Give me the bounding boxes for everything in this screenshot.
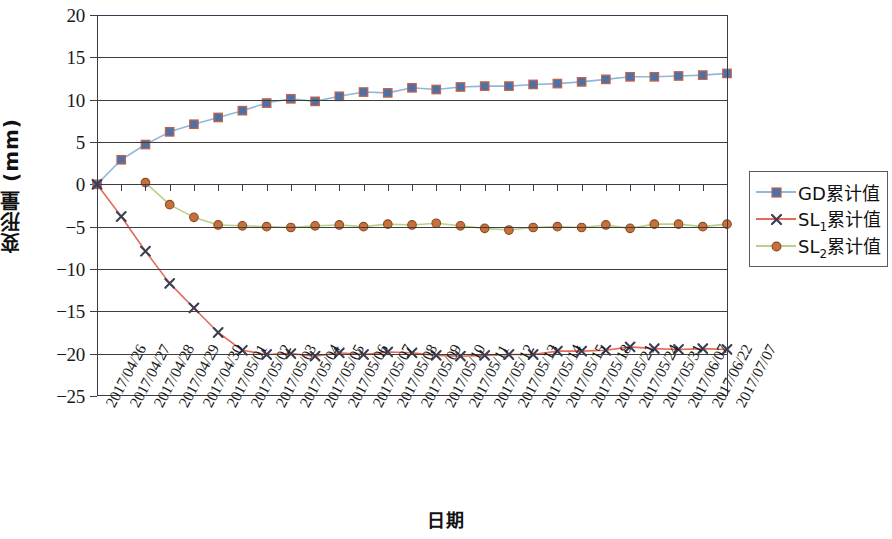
legend-item-2[interactable]: SL1累计值	[756, 206, 883, 232]
legend-label: GD累计值	[798, 179, 880, 205]
x-axis-tick-mark	[557, 184, 558, 191]
legend-item-3[interactable]: SL2累计值	[756, 233, 883, 259]
legend-swatch	[756, 212, 796, 226]
y-axis-tick-mark	[90, 269, 97, 270]
x-axis-title: 日期	[0, 506, 892, 532]
x-axis-tick-mark	[654, 184, 655, 191]
x-axis-tick-mark	[315, 184, 316, 191]
chart-screenshot: 变形量 (mm) 20151050−5−10−15−20−25 2017/04/…	[0, 0, 892, 539]
legend-swatch	[756, 185, 796, 199]
y-axis-tick-label: 20	[67, 6, 85, 25]
y-axis-tick-label: 15	[67, 48, 85, 67]
gridline	[97, 311, 728, 312]
y-axis-tick-label: −5	[65, 217, 85, 236]
gridline	[97, 57, 728, 58]
x-axis-tick-mark	[218, 184, 219, 191]
y-axis-tick-label: 10	[67, 90, 85, 109]
x-axis-tick-mark	[533, 184, 534, 191]
x-axis-tick-mark	[509, 184, 510, 191]
x-axis-tick-mark	[582, 184, 583, 191]
y-axis-tick-label: −25	[56, 387, 85, 406]
y-axis-tick-mark	[90, 227, 97, 228]
y-axis-tick-label: −10	[56, 260, 85, 279]
x-axis-tick-mark	[485, 184, 486, 191]
x-axis-tick-mark	[412, 184, 413, 191]
x-axis-tick-mark	[242, 184, 243, 191]
x-axis-tick-mark	[97, 184, 98, 191]
y-axis-tick-label: 5	[76, 133, 85, 152]
plot-frame	[97, 15, 728, 396]
legend-marker-circle-icon	[770, 240, 783, 253]
x-axis-tick-mark	[703, 184, 704, 191]
x-axis-tick-mark	[145, 184, 146, 191]
y-axis-tick-mark	[90, 354, 97, 355]
gridline	[97, 142, 728, 143]
legend-swatch	[756, 239, 796, 253]
x-axis-tick-mark	[606, 184, 607, 191]
x-axis-tick-mark	[121, 184, 122, 191]
y-axis-tick-mark	[90, 142, 97, 143]
y-axis-tick-labels: 20151050−5−10−15−20−25	[0, 0, 97, 411]
legend-item-1[interactable]: GD累计值	[756, 179, 883, 205]
legend-label: SL2累计值	[798, 232, 881, 261]
x-axis-tick-mark	[727, 184, 728, 191]
x-axis-tick-mark	[436, 184, 437, 191]
x-axis-tick-mark	[679, 184, 680, 191]
plot-area	[97, 15, 728, 396]
y-axis-tick-mark	[90, 100, 97, 101]
x-axis-tick-mark	[267, 184, 268, 191]
x-axis-tick-mark	[460, 184, 461, 191]
x-axis-tick-mark	[170, 184, 171, 191]
x-axis-tick-mark	[194, 184, 195, 191]
y-axis-tick-mark	[90, 15, 97, 16]
y-axis-tick-mark	[90, 396, 97, 397]
y-axis-tick-label: 0	[76, 175, 85, 194]
legend-marker-square-icon	[770, 186, 783, 199]
chart-legend: GD累计值SL1累计值SL2累计值	[749, 171, 888, 267]
gridline	[97, 227, 728, 228]
x-axis-tick-mark	[364, 184, 365, 191]
legend-marker-x-icon	[770, 213, 783, 226]
x-axis-tick-mark	[291, 184, 292, 191]
y-axis-tick-label: −20	[56, 344, 85, 363]
x-axis-tick-mark	[388, 184, 389, 191]
y-axis-tick-mark	[90, 57, 97, 58]
x-axis-tick-mark	[339, 184, 340, 191]
gridline	[97, 269, 728, 270]
x-axis-tick-mark	[630, 184, 631, 191]
gridline	[97, 100, 728, 101]
y-axis-tick-label: −15	[56, 302, 85, 321]
y-axis-tick-mark	[90, 311, 97, 312]
legend-label: SL1累计值	[798, 205, 881, 234]
